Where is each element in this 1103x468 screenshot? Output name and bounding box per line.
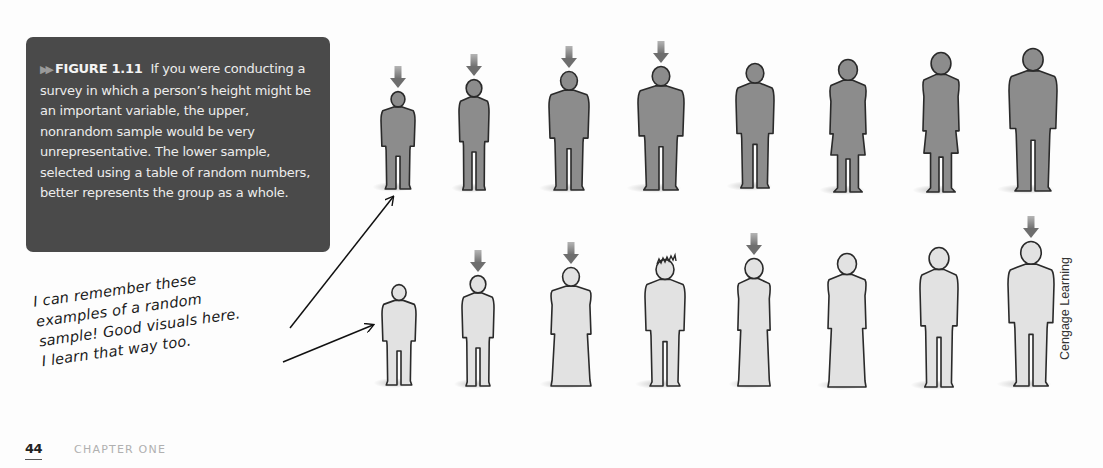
chapter-title: CHAPTER ONE (74, 443, 166, 456)
head-silhouette (1023, 48, 1043, 70)
body-silhouette (462, 293, 494, 386)
upper-row-person-6 (820, 60, 867, 195)
selection-arrow-icon (746, 233, 762, 255)
body-silhouette (459, 97, 489, 190)
head-silhouette (391, 92, 405, 107)
body-silhouette (382, 300, 416, 385)
lower-row-person-6 (817, 254, 866, 390)
body-silhouette (736, 83, 774, 188)
body-silhouette (645, 279, 685, 386)
body-silhouette (1009, 71, 1057, 191)
head-silhouette (929, 247, 949, 269)
selection-arrow-icon (470, 250, 486, 272)
selection-arrow-icon (390, 66, 406, 88)
body-silhouette (828, 274, 866, 387)
pointer-arrow-2 (283, 325, 373, 362)
head-silhouette (652, 67, 670, 86)
image-credit: Cengage Learning (1058, 257, 1072, 360)
head-silhouette (746, 64, 764, 84)
pointer-arrow-1 (290, 197, 393, 328)
lower-row-person-1 (374, 285, 417, 388)
upper-row-person-5 (727, 64, 775, 191)
selection-arrow-icon (466, 54, 482, 76)
upper-row-person-4 (627, 41, 685, 193)
lower-row-person-5 (729, 233, 771, 389)
upper-row-person-8 (997, 48, 1057, 194)
lower-row-person-7 (911, 247, 959, 390)
lower-row-person-4 (635, 255, 685, 389)
body-silhouette (923, 74, 959, 192)
selection-arrow-icon (561, 46, 577, 68)
body-silhouette (549, 90, 589, 190)
body-silhouette (920, 269, 958, 387)
lower-row-person-2 (454, 250, 494, 389)
upper-row-person-3 (539, 46, 589, 193)
head-silhouette (470, 276, 486, 293)
lower-row-person-8 (997, 216, 1055, 389)
head-silhouette (561, 72, 578, 91)
height-sample-illustration (0, 0, 1103, 468)
head-silhouette (839, 60, 858, 81)
upper-row-person-1 (373, 66, 416, 192)
selection-arrow-icon (563, 242, 579, 264)
upper-row-person-7 (913, 52, 960, 195)
upper-row-person-2 (452, 54, 490, 193)
body-silhouette (551, 286, 591, 386)
body-silhouette (738, 279, 770, 386)
body-silhouette (830, 80, 866, 192)
body-silhouette (638, 86, 684, 190)
head-silhouette (392, 285, 406, 301)
lower-row-person-3 (540, 242, 591, 389)
head-silhouette (745, 259, 763, 279)
body-silhouette (381, 107, 415, 189)
head-silhouette (466, 80, 482, 97)
head-silhouette (931, 52, 951, 74)
page-footer: 44 CHAPTER ONE (25, 441, 166, 460)
people-silhouettes (0, 0, 1103, 468)
head-silhouette (1021, 241, 1042, 264)
selection-arrow-icon (1023, 216, 1039, 238)
page-number: 44 (25, 441, 42, 460)
body-silhouette (1008, 264, 1054, 386)
head-silhouette (563, 268, 580, 287)
head-silhouette (838, 254, 857, 275)
selection-arrow-icon (653, 41, 669, 63)
